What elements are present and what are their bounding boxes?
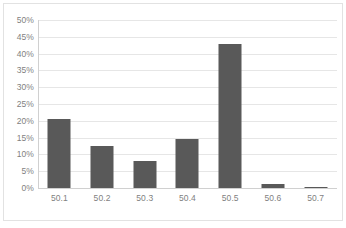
bar-slot	[123, 20, 166, 188]
bar-slot	[166, 20, 209, 188]
y-axis-tick-labels: 50% 45% 40% 35% 30% 25% 20% 15% 10% 5% 0…	[2, 0, 34, 228]
x-tick-label: 50.6	[252, 192, 295, 204]
x-axis-tick-labels: 50.1 50.2 50.3 50.4 50.5 50.6 50.7	[38, 192, 337, 208]
x-tick-label: 50.4	[166, 192, 209, 204]
y-tick-label: 5%	[22, 166, 35, 176]
bar-50-5[interactable]	[219, 44, 242, 188]
y-tick-label: 0%	[22, 183, 35, 193]
bar-slot	[252, 20, 295, 188]
y-tick-label: 35%	[17, 65, 34, 75]
x-tick-label: 50.7	[294, 192, 337, 204]
x-axis-line	[38, 188, 337, 189]
x-tick-label: 50.5	[209, 192, 252, 204]
bar-50-4[interactable]	[176, 139, 199, 188]
y-tick-label: 10%	[17, 149, 34, 159]
y-tick-label: 25%	[17, 99, 34, 109]
y-tick-label: 40%	[17, 49, 34, 59]
y-tick-label: 50%	[17, 15, 34, 25]
bar-slot	[209, 20, 252, 188]
bar-50-3[interactable]	[133, 161, 156, 188]
bar-slot	[294, 20, 337, 188]
bar-slot	[81, 20, 124, 188]
x-tick-label: 50.1	[38, 192, 81, 204]
y-tick-label: 20%	[17, 116, 34, 126]
x-tick-label: 50.3	[123, 192, 166, 204]
y-tick-label: 15%	[17, 133, 34, 143]
bar-50-2[interactable]	[91, 146, 114, 188]
bar-series	[38, 20, 337, 188]
x-tick-label: 50.2	[81, 192, 124, 204]
bar-50-6[interactable]	[261, 184, 284, 188]
y-tick-label: 30%	[17, 82, 34, 92]
bar-slot	[38, 20, 81, 188]
bar-50-1[interactable]	[48, 119, 71, 188]
bar-50-7[interactable]	[304, 187, 327, 188]
chart-container: 50% 45% 40% 35% 30% 25% 20% 15% 10% 5% 0…	[0, 0, 346, 228]
y-tick-label: 45%	[17, 32, 34, 42]
